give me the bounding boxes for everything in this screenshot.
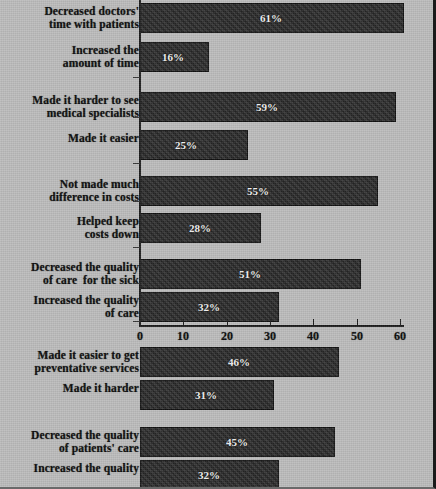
x-axis-tick (313, 319, 314, 325)
category-label: Decreased doctors' time with patients (3, 5, 139, 31)
y-axis-tick (133, 321, 140, 322)
bar-value-label: 59% (256, 102, 278, 113)
x-axis-tick (140, 319, 141, 325)
category-label: Increased the amount of time (3, 44, 139, 70)
bar-value-label: 32% (198, 302, 220, 313)
category-label: Made it easier to get preventative servi… (3, 349, 139, 375)
category-label: Decreased the quality of care for the si… (3, 261, 139, 287)
category-label: Made it harder to see medical specialist… (3, 94, 139, 120)
y-axis-tick (133, 163, 140, 164)
category-label: Not made much difference in costs (3, 178, 139, 204)
x-axis-tick-label: 50 (344, 330, 370, 342)
bar-value-label: 51% (239, 269, 261, 280)
bar-value-label: 31% (195, 390, 217, 401)
x-axis-tick-label: 30 (257, 330, 283, 342)
bar-value-label: 16% (162, 52, 184, 63)
x-axis-line (140, 325, 404, 327)
x-axis-tick (270, 319, 271, 325)
bar-value-label: 46% (228, 357, 250, 368)
bar-value-label: 45% (226, 437, 248, 448)
category-label: Increased the quality (3, 462, 139, 475)
y-axis-tick (133, 117, 140, 118)
y-axis-tick (133, 201, 140, 202)
category-label: Increased the quality of care (3, 294, 139, 320)
bar-value-label: 32% (198, 470, 220, 481)
bar-chart: Decreased doctors' time with patients61%… (0, 0, 436, 489)
bar-value-label: 61% (260, 13, 282, 24)
x-axis-tick (183, 319, 184, 325)
category-label: Made it harder (3, 382, 139, 395)
x-axis-tick (400, 319, 401, 325)
bar-value-label: 28% (189, 223, 211, 234)
x-axis-tick-label: 20 (214, 330, 240, 342)
x-axis-tick (357, 319, 358, 325)
y-axis-tick (133, 283, 140, 284)
x-axis-tick-label: 0 (127, 330, 153, 342)
x-axis-tick-label: 40 (300, 330, 326, 342)
bar-value-label: 55% (247, 186, 269, 197)
plot-area: Decreased doctors' time with patients61%… (0, 0, 436, 489)
y-axis-tick (133, 77, 140, 78)
category-label: Helped keep costs down (3, 215, 139, 241)
x-axis-tick (227, 319, 228, 325)
x-axis-tick-label: 10 (170, 330, 196, 342)
category-label: Made it easier (3, 132, 139, 145)
x-axis-tick-label: 60 (387, 330, 413, 342)
y-axis-tick (133, 247, 140, 248)
category-label: Decreased the quality of patients' care (3, 429, 139, 455)
bar-value-label: 25% (175, 140, 197, 151)
